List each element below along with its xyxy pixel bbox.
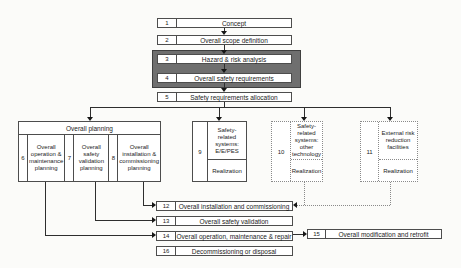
box-hazard-risk-analysis: 3 Hazard & risk analysis xyxy=(157,54,292,64)
box-overall-installation-commissioning: 12 Overall installation and commissionin… xyxy=(156,201,293,211)
arrowhead-dotted-into-12 xyxy=(293,202,297,208)
connector-10-down-dotted xyxy=(304,182,305,205)
connector-11-down-dotted xyxy=(390,182,391,205)
box-label: Safety-related systems: other technology xyxy=(291,122,322,160)
box-number: 4 xyxy=(158,74,177,82)
box-label: External risk reduction facilities xyxy=(379,122,417,160)
box-label: Concept xyxy=(177,19,291,27)
box-number: 10 xyxy=(272,122,291,181)
box-number: 5 xyxy=(158,93,177,101)
box-number: 11 xyxy=(361,122,379,181)
box-number: 6 xyxy=(19,135,28,181)
box-label: Safety-related systems: E/E/PES xyxy=(208,122,246,160)
planning-header: Overall planning xyxy=(19,122,160,135)
box-operation-maintenance-planning: Overall operation & maintenance planning xyxy=(28,135,65,181)
box-number: 13 xyxy=(157,217,176,225)
arrowhead-into-14 xyxy=(152,232,156,238)
connector-dotted-into-12 xyxy=(297,205,390,206)
arrowhead-3-4 xyxy=(221,69,227,73)
drop-box9 xyxy=(219,107,220,117)
box-srs-eepes: 9 Safety-related systems: E/E/PES Realiz… xyxy=(192,121,247,182)
connector-8-12 xyxy=(143,205,152,206)
branch-line xyxy=(90,107,390,108)
safety-lifecycle-diagram: 1 Concept 2 Overall scope definition 3 H… xyxy=(0,0,461,268)
box-label: Safety requirements allocation xyxy=(177,93,291,101)
box-label: Hazard & risk analysis xyxy=(177,55,291,63)
connector-14-15 xyxy=(293,234,303,235)
box-label: Overall safety requirements xyxy=(177,74,291,82)
connector-6-14 xyxy=(45,235,152,236)
box-number: 14 xyxy=(157,232,176,240)
drop-planning xyxy=(90,107,91,117)
realization-label: Realization xyxy=(379,160,417,181)
box-number: 16 xyxy=(157,247,176,255)
box-label: Overall operation, maintenance & repair xyxy=(176,232,292,240)
box-label: Overall installation and commissioning xyxy=(176,202,292,210)
arrowhead-2-3 xyxy=(221,50,227,54)
realization-label: Realization xyxy=(291,160,322,181)
box-number: 1 xyxy=(158,19,177,27)
drop-box10 xyxy=(304,107,305,117)
connector-8-down xyxy=(143,182,144,205)
box-label: Overall modification and retrofit xyxy=(326,230,441,238)
box-number: 2 xyxy=(158,36,177,44)
connector-7-13 xyxy=(95,220,152,221)
box-number: 8 xyxy=(109,135,118,181)
arrowhead-into-15 xyxy=(303,231,307,237)
box-external-risk-reduction: 11 External risk reduction facilities Re… xyxy=(360,121,418,182)
connector-7-down xyxy=(95,182,96,220)
box-overall-safety-validation: 13 Overall safety validation xyxy=(156,216,293,226)
box-label: Decommissioning or disposal xyxy=(176,247,292,255)
arrowhead-1-2 xyxy=(221,31,227,35)
arrowhead-4-5 xyxy=(221,88,227,92)
overall-planning-block: Overall planning 6 Overall operation & m… xyxy=(18,121,161,182)
box-number: 7 xyxy=(65,135,74,181)
arrowhead-into-13 xyxy=(152,217,156,223)
box-overall-modification-retrofit: 15 Overall modification and retrofit xyxy=(307,229,442,239)
drop-box11 xyxy=(390,107,391,117)
box-number: 15 xyxy=(308,230,326,238)
realization-label: Realization xyxy=(208,160,246,181)
box-overall-operation-maintenance-repair: 14 Overall operation, maintenance & repa… xyxy=(156,231,293,241)
connector-6-down xyxy=(45,182,46,235)
box-concept: 1 Concept xyxy=(157,18,292,28)
box-safety-requirements-allocation: 5 Safety requirements allocation xyxy=(157,92,292,102)
box-number: 12 xyxy=(157,202,176,210)
box-number: 9 xyxy=(193,122,208,181)
box-installation-commissioning-planning: Overall installation & commissioning pla… xyxy=(118,135,160,181)
box-number: 3 xyxy=(158,55,177,63)
box-label: Overall scope definition xyxy=(177,36,291,44)
arrowhead-into-12 xyxy=(152,202,156,208)
box-overall-safety-requirements: 4 Overall safety requirements xyxy=(157,73,292,83)
box-decommissioning-disposal: 16 Decommissioning or disposal xyxy=(156,246,293,256)
box-safety-validation-planning: Overall safety validation planning xyxy=(74,135,109,181)
box-srs-other-technology: 10 Safety-related systems: other technol… xyxy=(271,121,323,182)
box-overall-scope-definition: 2 Overall scope definition xyxy=(157,35,292,45)
planning-body: 6 Overall operation & maintenance planni… xyxy=(19,135,160,181)
box-label: Overall safety validation xyxy=(176,217,292,225)
